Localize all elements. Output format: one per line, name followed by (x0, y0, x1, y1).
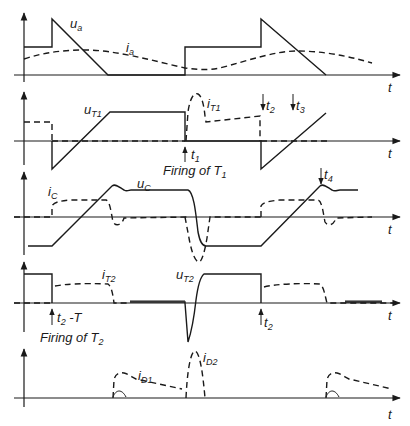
t2-label: t2 (266, 98, 275, 115)
u-a-label: ua (70, 16, 82, 33)
i-t1-waveform-pulse (186, 94, 260, 141)
time-axis-label-1: t (388, 80, 393, 95)
t4-label: t4 (324, 167, 333, 184)
u-t2-label: uT2 (176, 267, 194, 284)
i-d2-label: iD2 (203, 350, 217, 367)
t2-minus-t-label: t2 -T (57, 310, 83, 327)
panel-5: t iD1 iD2 (14, 349, 400, 422)
i-a-waveform (24, 50, 372, 70)
panel-4: t iT2 uT2 t2 -T Firing of T2 t2 (14, 262, 400, 347)
t2-label-lower: t2 (264, 315, 273, 332)
i-t2-label: iT2 (102, 267, 115, 284)
i-t1-label: iT1 (207, 96, 220, 113)
time-axis-label-3: t (388, 222, 393, 237)
time-axis-label-4: t (388, 308, 393, 323)
i-d1-label: iD1 (138, 368, 152, 385)
t1-label: t1 (191, 147, 200, 164)
firing-of-t1-annotation: Firing of T1 (163, 163, 227, 180)
i-t2-waveform-right (264, 284, 400, 303)
i-d1-small-arc (113, 391, 126, 397)
i-a-label: ia (126, 40, 134, 57)
waveform-diagram: t ua ia t uT1 iT1 t1 Firing of T1 t2 t3 … (0, 0, 410, 426)
firing-of-t2-annotation: Firing of T2 (40, 330, 104, 347)
u-c-label: uC (137, 176, 151, 193)
i-d1-small-arc-right (326, 391, 339, 397)
i-c-waveform-right (261, 200, 372, 225)
u-t1-label: uT1 (84, 102, 102, 119)
panel-2: t uT1 iT1 t1 Firing of T1 t2 t3 (14, 92, 400, 180)
i-t1-waveform-left (24, 122, 52, 141)
u-c-waveform (28, 185, 358, 246)
t3-label: t3 (296, 98, 305, 115)
i-c-label: iC (48, 184, 58, 201)
panel-1: t ua ia (14, 13, 400, 95)
i-t2-waveform (14, 284, 130, 303)
time-axis-label-5: t (388, 407, 393, 422)
panel-3: t uC iC t4 (14, 167, 400, 262)
i-c-waveform (14, 200, 188, 225)
time-axis-label-2: t (388, 146, 393, 161)
i-d1-waveform-right (326, 373, 392, 398)
